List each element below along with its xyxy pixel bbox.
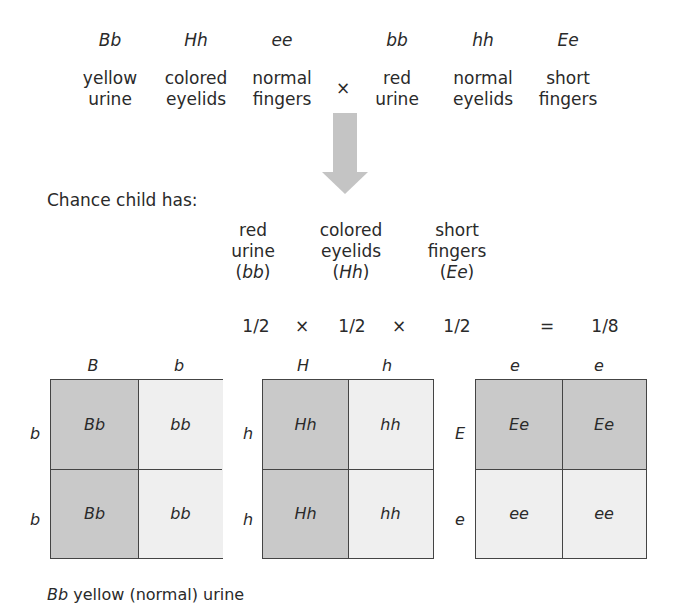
punnett2-row-label: h: [238, 424, 258, 443]
genotype-text: bb: [242, 262, 264, 282]
punnett2-col-label: h: [367, 356, 407, 375]
trait-line: urine: [198, 241, 308, 262]
legend-caption: Bb yellow (normal) urine: [47, 585, 244, 604]
trait-line: colored: [296, 220, 406, 241]
punnett1-col-label: b: [159, 356, 199, 375]
trait-short-fingers: short fingers (Ee): [402, 220, 512, 283]
trait-genotype: (bb): [198, 262, 308, 283]
punnett-cell: Ee: [562, 380, 646, 469]
punnett-cell: ee: [476, 469, 562, 558]
down-arrow-icon: [322, 113, 368, 199]
probability-result: 1/8: [575, 316, 635, 336]
trait-genotype: (Hh): [296, 262, 406, 283]
punnett1-row-label: b: [25, 510, 45, 529]
grid-divider: [51, 469, 222, 470]
phenotype-line: fingers: [518, 89, 618, 110]
times-symbol: ×: [369, 316, 429, 336]
punnett3-row-label: e: [450, 510, 470, 529]
chance-label: Chance child has:: [47, 190, 198, 210]
parent1-phenotype-urine: yellow urine: [60, 68, 160, 110]
grid-divider: [263, 469, 433, 470]
punnett-cell: ee: [562, 469, 646, 558]
parent1-genotype-fingers: ee: [237, 30, 327, 50]
punnett1-row-label: b: [25, 424, 45, 443]
punnett-cell: Ee: [476, 380, 562, 469]
genotype-text: Hh: [339, 262, 363, 282]
phenotype-line: urine: [347, 89, 447, 110]
phenotype-line: colored: [146, 68, 246, 89]
trait-colored-eyelids: colored eyelids (Hh): [296, 220, 406, 283]
trait-line: short: [402, 220, 512, 241]
punnett-cell: Bb: [51, 380, 138, 469]
punnett-cell: bb: [138, 469, 223, 558]
phenotype-line: red: [347, 68, 447, 89]
phenotype-line: urine: [60, 89, 160, 110]
punnett3-col-label: e: [579, 356, 619, 375]
punnett-cell: bb: [138, 380, 223, 469]
parent1-genotype-eyelids: Hh: [151, 30, 241, 50]
phenotype-line: yellow: [60, 68, 160, 89]
punnett-cell: hh: [348, 469, 433, 558]
punnett-square-urine: Bb bb Bb bb: [50, 379, 223, 559]
trait-line: fingers: [402, 241, 512, 262]
punnett-cell: hh: [348, 380, 433, 469]
punnett3-row-label: E: [450, 424, 470, 443]
trait-genotype: (Ee): [402, 262, 512, 283]
grid-divider: [476, 469, 646, 470]
probability-factor: 1/2: [427, 316, 487, 336]
punnett2-col-label: H: [283, 356, 323, 375]
phenotype-line: fingers: [232, 89, 332, 110]
trait-red-urine: red urine (bb): [198, 220, 308, 283]
punnett2-row-label: h: [238, 510, 258, 529]
parent2-phenotype-urine: red urine: [347, 68, 447, 110]
parent2-genotype-urine: bb: [352, 30, 442, 50]
phenotype-line: short: [518, 68, 618, 89]
caption-genotype: Bb: [47, 585, 68, 604]
punnett-cell: Hh: [263, 469, 348, 558]
trait-line: eyelids: [296, 241, 406, 262]
punnett-cell: Bb: [51, 469, 138, 558]
parent1-phenotype-fingers: normal fingers: [232, 68, 332, 110]
equals-symbol: =: [517, 316, 577, 336]
punnett1-col-label: B: [73, 356, 113, 375]
caption-text: yellow (normal) urine: [68, 585, 244, 604]
genotype-text: Ee: [446, 262, 467, 282]
punnett3-col-label: e: [495, 356, 535, 375]
parent2-phenotype-fingers: short fingers: [518, 68, 618, 110]
phenotype-line: normal: [232, 68, 332, 89]
parent2-genotype-eyelids: hh: [438, 30, 528, 50]
parent2-genotype-fingers: Ee: [523, 30, 613, 50]
phenotype-line: eyelids: [146, 89, 246, 110]
parent1-genotype-urine: Bb: [65, 30, 155, 50]
trait-line: red: [198, 220, 308, 241]
punnett-square-fingers: Ee Ee ee ee: [475, 379, 647, 559]
punnett-cell: Hh: [263, 380, 348, 469]
parent1-phenotype-eyelids: colored eyelids: [146, 68, 246, 110]
punnett-square-eyelids: Hh hh Hh hh: [262, 379, 434, 559]
